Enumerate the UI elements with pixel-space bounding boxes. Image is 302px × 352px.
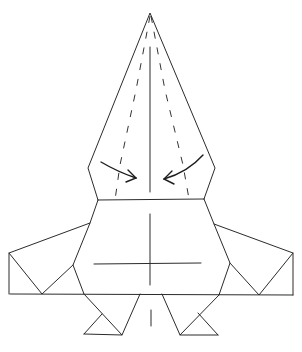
left-foot [84, 294, 140, 335]
upper-flap [88, 13, 215, 200]
fold-right-arrow [164, 155, 203, 184]
body [10, 199, 293, 295]
right-foot [162, 294, 219, 335]
cross-horizontal [94, 263, 201, 264]
origami-diagram [0, 0, 302, 352]
left-wing [9, 223, 90, 294]
right-wing [214, 224, 293, 295]
